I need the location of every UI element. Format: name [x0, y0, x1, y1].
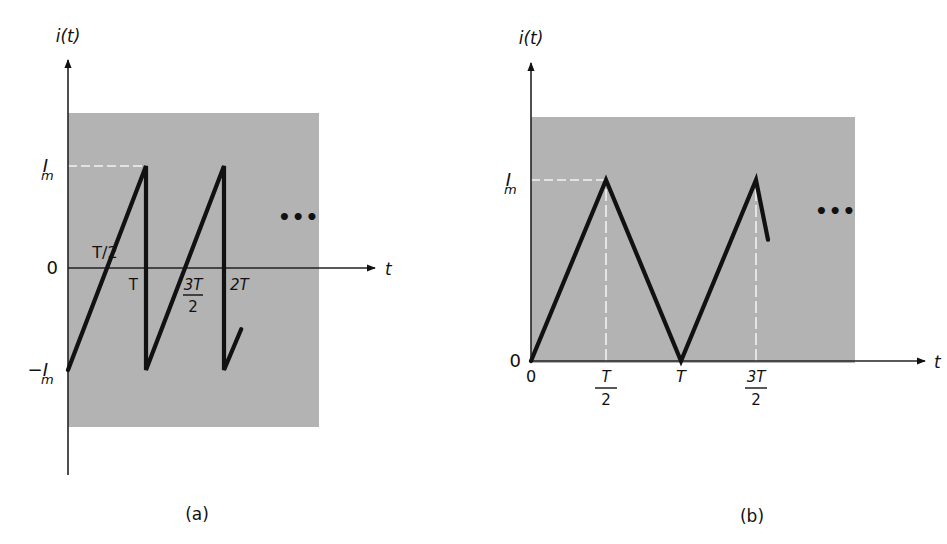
x-tick-numerator: T — [601, 368, 612, 386]
panel-b: •••i(t)tIm00T2T3T2(b) — [504, 28, 942, 526]
x-tick-label: T/2 — [91, 243, 117, 262]
y-axis-label: i(t) — [519, 28, 544, 48]
x-axis-label: t — [385, 259, 393, 279]
x-tick-denominator: 2 — [601, 391, 611, 409]
y-tick-label: 0 — [510, 350, 521, 371]
y-axis-label: i(t) — [56, 26, 81, 46]
continuation-ellipsis: ••• — [278, 205, 319, 229]
panel-caption: (a) — [185, 504, 209, 524]
x-tick-numerator: 3T — [184, 276, 205, 294]
continuation-ellipsis: ••• — [815, 199, 856, 223]
y-tick-subscript: m — [41, 372, 54, 387]
x-tick-label: 2T — [230, 276, 251, 294]
x-axis-label: t — [934, 352, 942, 372]
panel-a: •••i(t)tIm0−ImT/2T3T22T(a) — [28, 26, 393, 524]
x-tick-label: 0 — [526, 367, 536, 386]
y-tick-subscript: m — [504, 182, 517, 197]
x-tick-denominator: 2 — [751, 391, 761, 409]
x-tick-label: T — [128, 276, 139, 294]
x-tick-denominator: 2 — [188, 298, 198, 316]
x-tick-label: T — [676, 367, 687, 386]
y-tick-label: 0 — [47, 257, 58, 278]
panel-caption: (b) — [740, 506, 764, 526]
figure: •••i(t)tIm0−ImT/2T3T22T(a) •••i(t)tIm00T… — [0, 0, 947, 544]
x-tick-numerator: 3T — [747, 368, 768, 386]
y-tick-subscript: m — [41, 168, 54, 183]
